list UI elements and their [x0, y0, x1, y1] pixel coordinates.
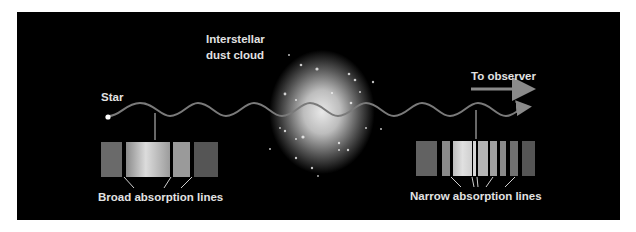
absorption-diagram: Interstellar dust cloud Star To observer… — [0, 0, 636, 232]
star-label: Star — [101, 91, 124, 103]
cloud-label-line2: dust cloud — [206, 49, 264, 61]
broad-pointer-lines — [124, 177, 192, 188]
narrow-lines-label: Narrow absorption lines — [410, 190, 542, 202]
star-icon — [105, 114, 110, 119]
narrow-pointer-lines — [451, 177, 515, 187]
broad-lines-label: Broad absorption lines — [98, 191, 223, 203]
dust-cloud — [267, 48, 382, 177]
observer-label: To observer — [471, 70, 536, 82]
narrow-spectrum — [416, 141, 535, 176]
broad-spectrum — [101, 142, 218, 177]
cloud-label-line1: Interstellar — [206, 33, 265, 45]
